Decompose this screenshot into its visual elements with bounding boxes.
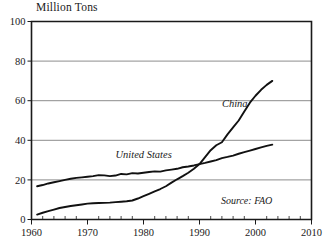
y-tick-label-100: 100 [10, 16, 26, 27]
y-tick-label-40: 40 [15, 135, 26, 146]
source-note: Source: FAO [221, 195, 272, 206]
chart-plot-area: 020406080100 196019701980199020002010 Ch… [0, 0, 323, 244]
y-tick-label-0: 0 [20, 214, 25, 225]
x-tick-label-1970: 1970 [77, 227, 98, 238]
y-axis-ticks: 020406080100 [10, 16, 32, 225]
x-tick-label-1960: 1960 [21, 227, 42, 238]
y-tick-label-80: 80 [15, 56, 26, 67]
chart-container: Million Tons 020406080100 19601970198019… [0, 0, 323, 244]
china-series-label: China [222, 98, 248, 109]
united-states-series-label: United States [116, 149, 172, 160]
y-tick-label-60: 60 [15, 95, 26, 106]
y-tick-label-20: 20 [15, 175, 26, 186]
x-tick-label-1980: 1980 [133, 227, 154, 238]
axis-frame [32, 22, 312, 220]
x-tick-label-2010: 2010 [301, 227, 322, 238]
x-tick-label-1990: 1990 [189, 227, 210, 238]
x-tick-label-2000: 2000 [245, 227, 266, 238]
